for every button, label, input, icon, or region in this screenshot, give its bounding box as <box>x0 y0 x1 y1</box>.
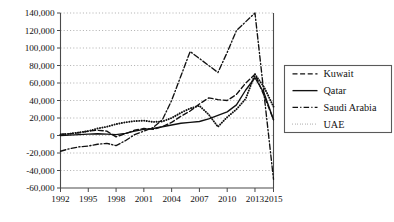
y-tick-label: 20,000 <box>29 113 55 123</box>
legend-label-qatar: Qatar <box>324 85 347 96</box>
data-series-group <box>61 13 274 179</box>
x-tick-label: 2010 <box>218 194 237 204</box>
x-tick-label: 2007 <box>190 194 209 204</box>
y-tick-label: 0 <box>50 131 55 141</box>
line-chart: -60,000-40,000-20,000020,00040,00060,000… <box>0 0 394 222</box>
series-line-kuwait <box>61 74 274 137</box>
legend-label-uae: UAE <box>324 119 345 130</box>
y-tick-label: 80,000 <box>29 61 55 71</box>
legend-label-kuwait: Kuwait <box>324 68 354 79</box>
gridlines <box>61 13 274 171</box>
chart-legend: KuwaitQatarSaudi ArabiaUAE <box>285 66 392 133</box>
y-tick-label: -20,000 <box>26 148 55 158</box>
y-tick-label: 140,000 <box>25 8 55 18</box>
x-tick-label: 2015 <box>264 194 283 204</box>
x-tick-label: 1998 <box>107 194 126 204</box>
x-tick-labels: 199219951998200120042007201020132015 <box>51 194 283 204</box>
y-tick-label: -60,000 <box>26 183 55 193</box>
y-tick-label: -40,000 <box>26 166 55 176</box>
y-tick-labels: -60,000-40,000-20,000020,00040,00060,000… <box>25 8 55 193</box>
x-tick-label: 2013 <box>246 194 265 204</box>
y-tick-label: 60,000 <box>29 78 55 88</box>
x-tick-label: 1992 <box>51 194 70 204</box>
x-tick-label: 1995 <box>79 194 98 204</box>
x-tick-label: 2001 <box>135 194 154 204</box>
legend-label-saudi-arabia: Saudi Arabia <box>324 102 377 113</box>
chart-figure: -60,000-40,000-20,000020,00040,00060,000… <box>0 0 394 222</box>
y-tick-label: 40,000 <box>29 96 55 106</box>
y-tick-label: 120,000 <box>25 26 55 36</box>
series-line-qatar <box>61 78 274 136</box>
axis-ticks <box>57 13 274 192</box>
y-tick-label: 100,000 <box>25 43 55 53</box>
x-tick-label: 2004 <box>162 194 181 204</box>
